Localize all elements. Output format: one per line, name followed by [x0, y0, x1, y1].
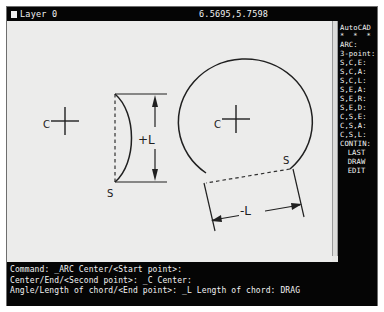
- right-dimension-label: -L: [240, 204, 251, 218]
- sidemenu-item-last[interactable]: LAST: [340, 148, 377, 157]
- right-chord-dashed-line: [206, 169, 290, 183]
- sidemenu-item-edit[interactable]: EDIT: [340, 166, 377, 175]
- right-dimension-extension-left: [204, 183, 215, 231]
- sidemenu-item-sca[interactable]: S,C,A:: [340, 67, 377, 76]
- left-arc-figure: C S +L: [43, 94, 167, 199]
- screenshot-root: Layer 0 6.5695,5.7598 C S: [0, 0, 384, 312]
- sidemenu-item-cse[interactable]: C,S,E:: [340, 112, 377, 121]
- left-dimension-label: +L: [138, 133, 155, 147]
- command-line-2: Center/End/<Second point>: _C Center:: [10, 276, 377, 287]
- right-center-label: C: [214, 119, 221, 130]
- command-line-area[interactable]: Command: _ARC Center/<Start point>: Cent…: [7, 262, 377, 306]
- command-line-1: Command: _ARC Center/<Start point>:: [10, 265, 377, 276]
- status-layer-label[interactable]: Layer 0: [20, 7, 57, 21]
- status-coordinate-readout[interactable]: 6.5695,5.7598: [199, 7, 268, 21]
- sidemenu-item-scl[interactable]: S,C,L:: [340, 76, 377, 85]
- drawing-vector-graphics: C S +L: [7, 21, 332, 256]
- sidemenu-item-csa[interactable]: C,S,A:: [340, 121, 377, 130]
- left-arc-curve: [115, 94, 132, 182]
- right-start-point-label: S: [283, 155, 289, 166]
- status-bar: Layer 0 6.5695,5.7598: [7, 7, 377, 21]
- sidemenu-item-3-point[interactable]: 3-point:: [340, 49, 377, 58]
- status-bar-marker-icon: [11, 11, 17, 18]
- sidemenu-command-header[interactable]: ARC:: [340, 40, 377, 49]
- sidemenu-item-ser[interactable]: S,E,R:: [340, 94, 377, 103]
- sidemenu-item-contin[interactable]: CONTIN:: [340, 139, 377, 148]
- right-arc-figure: C S -L: [178, 59, 312, 231]
- right-dimension-arrow-right-icon: [291, 203, 302, 210]
- right-dimension-extension-right: [293, 169, 304, 217]
- sidemenu-item-draw[interactable]: DRAW: [340, 157, 377, 166]
- left-start-point-label: S: [107, 188, 113, 199]
- sidemenu-item-sce[interactable]: S,C,E:: [340, 58, 377, 67]
- sidemenu-item-sea[interactable]: S,E,A:: [340, 85, 377, 94]
- left-center-crosshair-icon: [51, 107, 79, 135]
- command-line-3: Angle/Length of chord/<End point>: _L Le…: [10, 286, 377, 297]
- left-dimension-arrow-up-icon: [152, 95, 158, 107]
- sidemenu-stars-row[interactable]: * * * *: [340, 32, 377, 40]
- sidemenu-item-csl[interactable]: C,S,L:: [340, 130, 377, 139]
- drawing-canvas[interactable]: C S +L: [7, 21, 332, 256]
- sidemenu-item-sed[interactable]: S,E,D:: [340, 103, 377, 112]
- right-arc-curve: [178, 59, 312, 173]
- left-center-label: C: [43, 119, 50, 130]
- left-dimension-arrow-down-icon: [152, 169, 158, 181]
- sidemenu-title[interactable]: AutoCAD: [340, 23, 377, 32]
- right-center-crosshair-icon: [222, 105, 250, 133]
